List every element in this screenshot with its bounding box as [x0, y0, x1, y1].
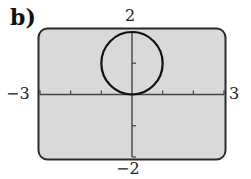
- graph-plot: [0, 0, 251, 179]
- x-min-label: −3: [6, 86, 30, 102]
- y-max-label: 2: [125, 8, 135, 24]
- x-max-label: 3: [229, 86, 239, 102]
- y-min-label: −2: [116, 161, 140, 177]
